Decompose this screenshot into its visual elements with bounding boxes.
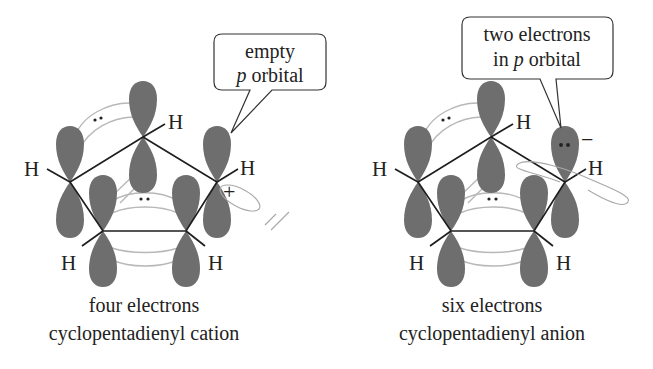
caption-electron-count: six electrons <box>442 294 543 316</box>
positive-charge: + <box>223 179 235 204</box>
callout-line1: two electrons <box>483 23 590 45</box>
caption-electron-count: four electrons <box>89 294 200 316</box>
callout-empty-p-orbital: empty p orbital <box>214 34 326 133</box>
p-orbitals <box>404 81 579 287</box>
negative-charge: − <box>581 127 593 152</box>
callout-line2: in p orbital <box>493 48 581 71</box>
cation-diagram: H H H H H + empty p orbital four electro… <box>24 34 326 345</box>
atom-h-bottom-right: H <box>208 251 223 275</box>
atom-h-bottom-left: H <box>61 251 76 275</box>
callout-line2: p orbital <box>234 64 304 87</box>
atom-h-bottom-right: H <box>556 251 571 275</box>
atom-h-left: H <box>24 157 39 181</box>
atom-h-right: H <box>588 156 603 180</box>
atom-h-top: H <box>516 110 531 134</box>
atom-h-top: H <box>168 110 183 134</box>
caption-species-name: cyclopentadienyl anion <box>399 322 585 345</box>
atom-h-left: H <box>372 157 387 181</box>
caption-species-name: cyclopentadienyl cation <box>49 322 239 345</box>
callout-line1: empty <box>245 40 295 63</box>
atom-h-right: H <box>240 156 255 180</box>
atom-h-bottom-left: H <box>409 251 424 275</box>
p-orbitals <box>56 81 231 287</box>
anion-diagram: H H H H H − two electrons in p orbital s… <box>372 17 628 345</box>
